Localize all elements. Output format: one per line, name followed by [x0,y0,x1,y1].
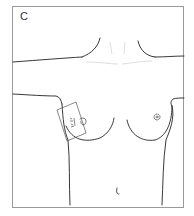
sternal-notch [110,42,112,54]
navel [117,188,119,194]
left-upper-arm-line [13,57,82,62]
clavicle-left [86,62,118,64]
right-nipple [154,114,160,120]
left-arm-lower-line [13,94,62,104]
left-shoulder-curve [82,38,100,57]
left-breast-curve [66,118,114,140]
right-upper-arm-line [155,56,184,57]
right-arm-lower-line [171,98,184,106]
left-torso-side [62,104,70,205]
marking-rectangle [57,102,86,141]
clavicle-right [122,61,152,64]
right-breast-curve [127,106,172,140]
right-torso-side [162,106,173,205]
torso-drawing [0,0,194,216]
right-shoulder-curve [138,41,155,57]
handwritten-annotation [70,118,75,127]
